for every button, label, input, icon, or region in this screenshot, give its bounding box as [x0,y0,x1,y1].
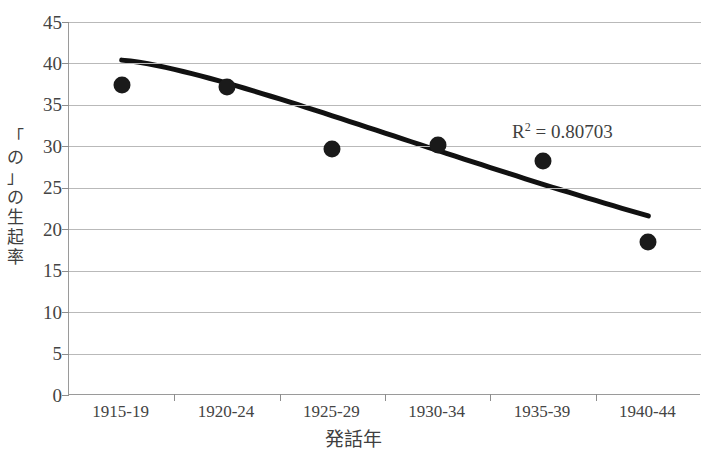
y-axis-tick [62,271,69,272]
data-point [219,78,236,95]
y-axis-label: 10 [22,303,62,322]
x-axis-tick [385,394,386,401]
data-point [640,234,657,251]
x-axis-tick [596,394,597,401]
gridline [69,105,701,106]
y-axis-label: 25 [22,178,62,197]
x-axis-label: 1925-29 [279,403,384,420]
y-axis-tick [62,188,69,189]
x-axis-tick [490,394,491,401]
r-squared-prefix: R [512,121,525,142]
gridline [69,271,701,272]
x-axis-tick [174,394,175,401]
data-point [429,136,446,153]
y-axis-label: 40 [22,54,62,73]
y-axis-tick [62,229,69,230]
plot-area [68,22,700,395]
y-axis-label: 30 [22,137,62,156]
y-axis-label: 35 [22,95,62,114]
y-axis-tick [62,146,69,147]
y-axis-tick [62,63,69,64]
r-squared-value: = 0.80703 [531,121,613,142]
data-point [324,140,341,157]
x-axis-label: 1940-44 [595,403,700,420]
gridline [69,63,701,64]
y-axis-label: 15 [22,261,62,280]
y-axis-tick [62,395,69,396]
chart-container: 「 の 」 の 生 起 率 R2 = 0.80703 発話年 051015202… [0,0,706,459]
x-axis-tick [280,394,281,401]
gridline [69,354,701,355]
x-axis-label: 1920-24 [173,403,278,420]
y-axis-label: 0 [22,386,62,405]
trendline [69,22,701,395]
y-axis-label: 5 [22,344,62,363]
x-axis-label: 1935-39 [489,403,594,420]
y-axis-label: 20 [22,220,62,239]
y-axis-tick [62,312,69,313]
y-axis-tick [62,22,69,23]
x-axis-label: 1930-34 [384,403,489,420]
y-axis-tick [62,105,69,106]
gridline [69,229,701,230]
x-axis-label: 1915-19 [68,403,173,420]
x-axis-title: 発話年 [0,430,706,449]
r-squared-annotation: R2 = 0.80703 [512,118,613,141]
data-point [535,153,552,170]
gridline [69,146,701,147]
gridline [69,312,701,313]
gridline [69,22,701,23]
gridline [69,188,701,189]
y-axis-tick [62,354,69,355]
data-point [113,76,130,93]
y-axis-label: 45 [22,13,62,32]
